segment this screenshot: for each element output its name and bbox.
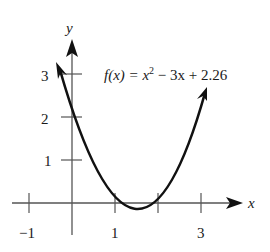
parabola-curve bbox=[60, 70, 205, 209]
y-axis-label: y bbox=[64, 20, 73, 36]
x-tick-label-1: 1 bbox=[111, 225, 119, 241]
x-axis-label: x bbox=[247, 195, 255, 211]
y-tick-label-3: 3 bbox=[41, 68, 49, 84]
function-graph: y x 3 2 1 −1 1 3 f(x) = x2 − 3x + 2.26 bbox=[0, 0, 270, 252]
y-tick-label-2: 2 bbox=[41, 111, 49, 127]
x-tick-label-neg1: −1 bbox=[19, 225, 35, 241]
x-tick-label-3: 3 bbox=[197, 225, 205, 241]
y-tick-label-1: 1 bbox=[44, 153, 52, 169]
function-label: f(x) = x2 − 3x + 2.26 bbox=[104, 65, 228, 84]
